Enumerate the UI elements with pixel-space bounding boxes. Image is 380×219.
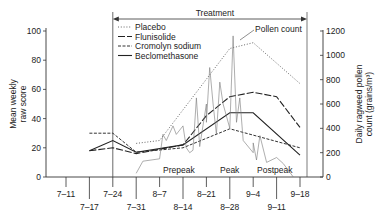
y-tick-label: 40 <box>32 114 42 124</box>
legend-label: Flunisolide <box>135 32 176 42</box>
x-tick-label: 9–18 <box>291 189 310 199</box>
axes: 0204060801000200400600800100012007–117–1… <box>8 8 374 212</box>
treatment-label: Treatment <box>196 8 235 18</box>
series-beclomethasone <box>89 113 300 155</box>
pollen-count-label: Pollen count <box>255 24 302 34</box>
y-tick-label: 20 <box>32 143 42 153</box>
y2-axis-title: Daily ragweed pollencount (grains/m³) <box>354 64 374 143</box>
pollen-count-pointer <box>240 30 254 40</box>
legend-label: Placebo <box>135 22 166 32</box>
y2-tick-label: 1200 <box>326 26 345 36</box>
x-tick-label: 8–28 <box>220 202 239 212</box>
x-tick-label: 9–11 <box>267 202 286 212</box>
x-tick-label: 7–11 <box>57 189 76 199</box>
x-tick-label: 7–24 <box>103 189 122 199</box>
x-tick-label: 8–21 <box>197 189 216 199</box>
x-tick-label: 8–7 <box>153 189 167 199</box>
y2-tick-label: 600 <box>326 99 340 109</box>
chart-canvas: 0204060801000200400600800100012007–117–1… <box>0 0 380 219</box>
series-cromolyn-sodium <box>89 129 300 152</box>
legend-label: Cromolyn sodium <box>135 41 201 51</box>
legend-label: Beclomethasone <box>135 51 199 61</box>
y-axis-title: Mean weeklyraw score <box>8 78 28 128</box>
x-tick-label: 7–17 <box>80 202 99 212</box>
y2-tick-label: 400 <box>326 123 340 133</box>
y-tick-label: 100 <box>27 26 41 36</box>
x-tick-label: 7–31 <box>127 202 146 212</box>
chart: 0204060801000200400600800100012007–117–1… <box>0 0 380 219</box>
y-tick-label: 80 <box>32 55 42 65</box>
y2-tick-label: 800 <box>326 75 340 85</box>
y-tick-label: 60 <box>32 84 42 94</box>
prepeak-label: Prepeak <box>163 165 195 175</box>
y2-tick-label: 200 <box>326 148 340 158</box>
peak-label: Peak <box>220 165 240 175</box>
y-tick-label: 0 <box>36 172 41 182</box>
legend: PlaceboFlunisolideCromolyn sodiumBeclome… <box>118 22 201 61</box>
y2-tick-label: 0 <box>326 172 331 182</box>
x-tick-label: 8–14 <box>174 202 193 212</box>
y2-tick-label: 1000 <box>326 50 345 60</box>
x-tick-label: 9–4 <box>246 189 260 199</box>
